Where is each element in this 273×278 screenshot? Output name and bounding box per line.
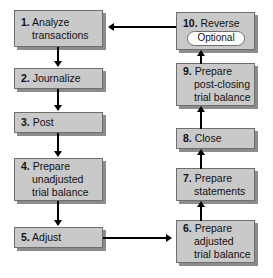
step8-text1: Close — [195, 132, 222, 144]
flow-node-step8[interactable]: 8. Close — [176, 128, 255, 149]
step6-number: 6. — [183, 222, 192, 234]
flow-node-step10[interactable]: 10. Reverse Optional — [176, 12, 255, 50]
arrowhead-step3-to-step4 — [54, 151, 62, 157]
connector-step6-to-step7 — [200, 207, 202, 221]
connector-step10-to-step1 — [114, 26, 176, 28]
step10-badge-row: Optional — [183, 31, 249, 46]
step2-text1: Journalize — [33, 72, 81, 84]
arrowhead-step9-to-step10 — [197, 50, 205, 56]
step7-number: 7. — [183, 172, 192, 184]
arrowhead-step10-to-step1 — [108, 23, 114, 31]
flow-node-step5[interactable]: 5. Adjust — [14, 227, 103, 248]
step5-line1: 5. Adjust — [21, 231, 97, 244]
connector-step5-to-step6 — [103, 237, 167, 239]
step4-number: 4. — [21, 160, 30, 172]
step10-line1: 10. Reverse — [183, 17, 249, 30]
step5-number: 5. — [21, 231, 30, 243]
step1-line2: transactions — [21, 29, 97, 42]
connector-step4-to-step5 — [57, 201, 59, 221]
connector-step7-to-step8 — [200, 155, 202, 169]
arrowhead-step1-to-step2 — [54, 61, 62, 67]
step4-line1: 4. Prepare — [21, 160, 97, 173]
flow-node-step2[interactable]: 2. Journalize — [14, 68, 103, 89]
step3-number: 3. — [21, 116, 30, 128]
connector-step2-to-step3 — [57, 89, 59, 106]
step6-line2: adjusted — [183, 235, 249, 248]
step2-number: 2. — [21, 72, 30, 84]
accounting-cycle-diagram: 1. Analyze transactions 2. Journalize 3.… — [0, 0, 273, 278]
step1-line1: 1. Analyze — [21, 16, 97, 29]
step3-line1: 3. Post — [21, 116, 97, 129]
arrowhead-step5-to-step6 — [166, 234, 172, 242]
step3-text1: Post — [33, 116, 54, 128]
flow-node-step3[interactable]: 3. Post — [14, 112, 103, 133]
step6-line1: 6. Prepare — [183, 222, 249, 235]
arrowhead-step7-to-step8 — [197, 149, 205, 155]
step6-line3: trial balance — [183, 248, 249, 261]
step7-text1: Prepare — [195, 172, 232, 184]
optional-badge: Optional — [187, 31, 244, 46]
step9-line2: post-closing — [183, 78, 249, 91]
flow-node-step6[interactable]: 6. Prepare adjusted trial balance — [176, 220, 255, 263]
step7-line2: statements — [183, 185, 249, 198]
step10-number: 10. — [183, 17, 198, 29]
arrowhead-step6-to-step7 — [197, 201, 205, 207]
step10-text1: Reverse — [201, 17, 240, 29]
step6-text1: Prepare — [195, 222, 232, 234]
step9-number: 9. — [183, 65, 192, 77]
step2-line1: 2. Journalize — [21, 72, 97, 85]
step5-text1: Adjust — [32, 231, 61, 243]
step9-line1: 9. Prepare — [183, 65, 249, 78]
arrowhead-step4-to-step5 — [54, 220, 62, 226]
step7-line1: 7. Prepare — [183, 172, 249, 185]
flow-node-step1[interactable]: 1. Analyze transactions — [14, 10, 103, 47]
step1-text1: Analyze — [32, 16, 69, 28]
step9-line3: trial balance — [183, 91, 249, 104]
step1-number: 1. — [21, 16, 30, 28]
connector-step3-to-step4 — [57, 133, 59, 152]
step4-line3: trial balance — [21, 186, 97, 199]
arrowhead-step8-to-step9 — [197, 106, 205, 112]
flow-node-step4[interactable]: 4. Prepare unadjusted trial balance — [14, 158, 103, 201]
connector-step9-to-step10 — [200, 56, 202, 64]
step8-line1: 8. Close — [183, 132, 249, 145]
connector-step1-to-step2 — [57, 47, 59, 62]
step4-text1: Prepare — [33, 160, 70, 172]
step9-text1: Prepare — [195, 65, 232, 77]
step8-number: 8. — [183, 132, 192, 144]
flow-node-step9[interactable]: 9. Prepare post-closing trial balance — [176, 63, 255, 106]
step4-line2: unadjusted — [21, 173, 97, 186]
connector-step8-to-step9 — [200, 112, 202, 129]
flow-node-step7[interactable]: 7. Prepare statements — [176, 168, 255, 201]
arrowhead-step2-to-step3 — [54, 105, 62, 111]
